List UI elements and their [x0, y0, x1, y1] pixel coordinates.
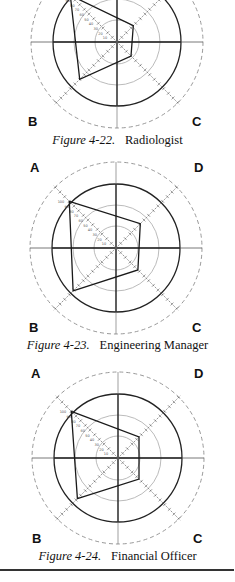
svg-text:100: 100 — [58, 200, 65, 204]
corner-label-b: B — [32, 531, 41, 546]
svg-text:70: 70 — [75, 8, 79, 12]
svg-text:10: 10 — [102, 242, 106, 246]
svg-text:10: 10 — [103, 36, 107, 40]
figure-number: Figure 4-22. — [52, 133, 115, 147]
corner-label-b: B — [29, 320, 38, 335]
svg-text:50: 50 — [85, 434, 89, 438]
page-rule — [0, 569, 234, 571]
radar-grid: 102030405060708090100 — [30, 162, 202, 334]
svg-text:30: 30 — [93, 233, 97, 237]
svg-text:20: 20 — [99, 448, 103, 452]
figure-title: Radiologist — [125, 133, 183, 147]
figure-title: Engineering Manager — [100, 338, 209, 352]
svg-text:20: 20 — [97, 238, 101, 242]
svg-text:30: 30 — [94, 27, 98, 31]
corner-label-b: B — [28, 114, 37, 129]
svg-text:90: 90 — [65, 205, 69, 209]
figure-number: Figure 4-23. — [27, 338, 90, 352]
svg-text:60: 60 — [81, 429, 85, 433]
svg-text:70: 70 — [76, 424, 80, 428]
corner-label-d: D — [194, 160, 203, 175]
corner-label-c: C — [193, 531, 202, 546]
svg-text:60: 60 — [79, 219, 83, 223]
svg-text:40: 40 — [90, 438, 94, 442]
svg-text:60: 60 — [80, 13, 84, 17]
figure-caption: Figure 4-22.Radiologist — [0, 133, 235, 148]
svg-text:50: 50 — [84, 18, 88, 22]
corner-label-d: D — [194, 366, 203, 381]
radar-grid: 102030405060708090100 — [32, 372, 204, 544]
profile-polygon — [69, 201, 140, 291]
svg-text:20: 20 — [98, 32, 102, 36]
svg-text:10: 10 — [104, 452, 108, 456]
figure-title: Financial Officer — [111, 549, 197, 563]
figure-caption: Figure 4-23.Engineering Manager — [0, 338, 235, 353]
svg-text:90: 90 — [67, 415, 71, 419]
corner-label-a: A — [31, 366, 40, 381]
profile-polygon — [71, 411, 139, 498]
svg-text:90: 90 — [66, 0, 70, 3]
corner-label-c: C — [192, 320, 201, 335]
svg-text:30: 30 — [95, 443, 99, 447]
figure-caption: Figure 4-24.Financial Officer — [0, 549, 235, 564]
svg-text:40: 40 — [88, 228, 92, 232]
corner-label-c: C — [192, 114, 201, 129]
corner-label-a: A — [30, 160, 39, 175]
svg-text:80: 80 — [71, 420, 75, 424]
figure-number: Figure 4-24. — [38, 549, 101, 563]
svg-text:70: 70 — [74, 214, 78, 218]
svg-text:50: 50 — [83, 224, 87, 228]
svg-text:40: 40 — [89, 22, 93, 26]
profile-polygon — [70, 0, 133, 79]
radar-grid: 102030405060708090100 — [31, 0, 203, 128]
figure-4-22: 102030405060708090100 B C Figure 4-22.Ra… — [0, 0, 235, 150]
svg-text:80: 80 — [69, 210, 73, 214]
svg-text:100: 100 — [60, 410, 67, 414]
